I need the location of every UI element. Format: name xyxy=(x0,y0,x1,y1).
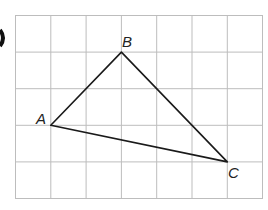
label-c: C xyxy=(228,164,239,181)
partial-bracket-icon xyxy=(0,30,3,46)
grid-diagram: A B C xyxy=(0,0,268,210)
label-b: B xyxy=(122,33,132,50)
label-a: A xyxy=(35,110,46,127)
grid xyxy=(16,16,263,199)
triangle-abc xyxy=(51,52,228,162)
